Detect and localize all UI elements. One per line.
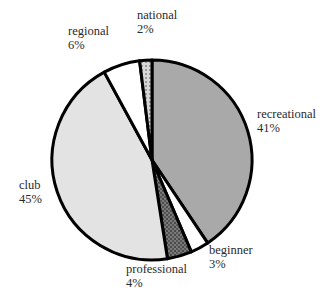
label-club-name: club	[19, 178, 42, 192]
label-beginner-name: beginner	[209, 243, 253, 257]
label-club-pct: 45%	[19, 192, 42, 206]
label-professional-pct: 4%	[126, 276, 187, 290]
label-national: national 2%	[137, 8, 177, 36]
label-professional-name: professional	[126, 262, 187, 276]
label-regional-pct: 6%	[68, 38, 109, 52]
label-regional: regional 6%	[68, 24, 109, 52]
label-national-pct: 2%	[137, 22, 177, 36]
label-recreational-name: recreational	[257, 107, 316, 121]
label-recreational: recreational 41%	[257, 107, 316, 135]
pie-slices	[52, 60, 252, 260]
label-national-name: national	[137, 8, 177, 22]
label-beginner-pct: 3%	[209, 257, 253, 271]
label-club: club 45%	[19, 178, 42, 206]
label-beginner: beginner 3%	[209, 243, 253, 271]
label-regional-name: regional	[68, 24, 109, 38]
pie-chart	[0, 0, 332, 307]
label-professional: professional 4%	[126, 262, 187, 290]
label-recreational-pct: 41%	[257, 121, 316, 135]
